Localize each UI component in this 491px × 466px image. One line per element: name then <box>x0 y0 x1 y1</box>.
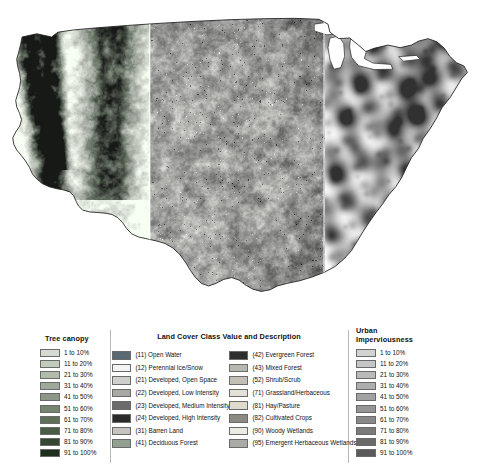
tree-canopy-legend-item: 41 to 50% <box>40 392 112 403</box>
legend-color-swatch <box>356 371 376 379</box>
legend-color-swatch <box>229 376 248 385</box>
land-cover-legend-item: (21) Developed, Open Space <box>112 374 229 387</box>
land-cover-legend-item: (23) Developed, Medium Intensity <box>112 399 229 412</box>
legend-color-swatch <box>356 449 376 457</box>
land-cover-legend-item: (11) Open Water <box>112 349 229 362</box>
land-cover-legend-item: (81) Hay/Pasture <box>229 399 346 412</box>
land-cover-legend-item: (12) Perennial Ice/Snow <box>112 362 229 375</box>
land-cover-legend-item: (22) Developed, Low Intensity <box>112 387 229 400</box>
urban-imperviousness-legend-rows: 1 to 10%11 to 20%21 to 30%31 to 40%41 to… <box>356 347 446 459</box>
legend-color-swatch <box>40 449 60 457</box>
legend-item-label: 1 to 10% <box>380 349 405 357</box>
land-cover-legend-item: (90) Woody Wetlands <box>229 425 346 438</box>
legend-color-swatch <box>229 351 248 360</box>
land-cover-legend-item: (52) Shrub/Scrub <box>229 374 346 387</box>
legend-color-swatch <box>356 382 376 390</box>
legend-item-label: 81 to 90% <box>380 438 409 446</box>
tree-canopy-legend-title: Tree canopy <box>45 334 112 343</box>
legend-item-label: 61 to 70% <box>380 416 409 424</box>
legend-item-label: 61 to 70% <box>64 416 93 424</box>
legend-item-label: (81) Hay/Pasture <box>253 402 301 410</box>
legend-item-label: (24) Developed, High Intensity <box>136 414 221 422</box>
urban-imperviousness-legend-item: 51 to 60% <box>356 403 446 414</box>
tree-canopy-legend-item: 1 to 10% <box>40 347 112 358</box>
legend-item-label: 81 to 90% <box>64 438 93 446</box>
land-cover-legend-item: (43) Mixed Forest <box>229 362 346 375</box>
legend-color-swatch <box>229 364 248 373</box>
us-nlcd-map-image <box>0 0 491 322</box>
legend-color-swatch <box>112 401 131 410</box>
legend-color-swatch <box>40 382 60 390</box>
legend-color-swatch <box>356 349 376 357</box>
legend-item-label: (11) Open Water <box>136 351 182 359</box>
tree-canopy-legend-item: 91 to 100% <box>40 448 112 459</box>
urban-imperviousness-legend-item: 11 to 20% <box>356 358 446 369</box>
urban-imperviousness-legend-item: 41 to 50% <box>356 392 446 403</box>
legend-area: Tree canopy 1 to 10%11 to 20%21 to 30%31… <box>0 322 491 466</box>
legend-item-label: (41) Deciduous Forest <box>136 439 198 447</box>
legend-color-swatch <box>229 401 248 410</box>
legend-color-swatch <box>40 438 60 446</box>
land-cover-legend-title: Land Cover Class Value and Description <box>112 332 346 341</box>
legend-item-label: (22) Developed, Low Intensity <box>136 389 219 397</box>
urban-imperviousness-legend-title: Urban Imperviousness <box>356 326 446 344</box>
urban-imperviousness-legend-item: 31 to 40% <box>356 381 446 392</box>
legend-item-label: (12) Perennial Ice/Snow <box>136 364 203 372</box>
legend-item-label: 21 to 30% <box>380 371 409 379</box>
legend-item-label: 71 to 80% <box>380 427 409 435</box>
map-figure <box>0 0 491 322</box>
tree-canopy-legend-item: 51 to 60% <box>40 403 112 414</box>
legend-item-label: 41 to 50% <box>64 393 93 401</box>
legend-item-label: 51 to 60% <box>380 405 409 413</box>
legend-color-swatch <box>40 427 60 435</box>
urban-imperviousness-legend-item: 61 to 70% <box>356 414 446 425</box>
land-cover-legend-item: (95) Emergent Herbaceous Wetlands <box>229 437 346 450</box>
legend-color-swatch <box>356 427 376 435</box>
land-cover-legend-item: (41) Deciduous Forest <box>112 437 229 450</box>
urban-imperviousness-legend-item: 21 to 30% <box>356 369 446 380</box>
legend-color-swatch <box>40 360 60 368</box>
tree-canopy-legend-rows: 1 to 10%11 to 20%21 to 30%31 to 40%41 to… <box>40 347 112 459</box>
tree-canopy-legend: Tree canopy 1 to 10%11 to 20%21 to 30%31… <box>40 334 112 459</box>
legend-item-label: 31 to 40% <box>380 382 409 390</box>
legend-item-label: 91 to 100% <box>380 449 412 457</box>
legend-item-label: 71 to 80% <box>64 427 93 435</box>
tree-canopy-legend-item: 21 to 30% <box>40 369 112 380</box>
legend-color-swatch <box>229 389 248 398</box>
urban-imperviousness-legend-item: 81 to 90% <box>356 437 446 448</box>
legend-color-swatch <box>229 427 248 436</box>
legend-item-label: 11 to 20% <box>64 360 92 368</box>
urban-legend-title-line-1: Urban <box>356 326 446 335</box>
legend-item-label: 91 to 100% <box>64 449 96 457</box>
legend-color-swatch <box>112 376 131 385</box>
land-cover-legend-item: (82) Cultivated Crops <box>229 412 346 425</box>
tree-canopy-legend-item: 11 to 20% <box>40 358 112 369</box>
legend-color-swatch <box>112 364 131 373</box>
legend-item-label: 21 to 30% <box>64 371 93 379</box>
legend-color-swatch <box>356 360 376 368</box>
legend-color-swatch <box>40 416 60 424</box>
land-cover-legend-item: (42) Evergreen Forest <box>229 349 346 362</box>
tree-canopy-legend-item: 61 to 70% <box>40 414 112 425</box>
legend-item-label: 41 to 50% <box>380 393 409 401</box>
legend-color-swatch <box>40 405 60 413</box>
legend-color-swatch <box>356 416 376 424</box>
land-cover-column-left: (11) Open Water(12) Perennial Ice/Snow(2… <box>112 349 229 450</box>
legend-item-label: 31 to 40% <box>64 382 93 390</box>
legend-item-label: (90) Woody Wetlands <box>253 427 313 435</box>
legend-item-label: 51 to 60% <box>64 405 93 413</box>
legend-item-label: (95) Emergent Herbaceous Wetlands <box>253 439 357 447</box>
tree-canopy-legend-item: 71 to 80% <box>40 425 112 436</box>
legend-item-label: (31) Barren Land <box>136 427 184 435</box>
legend-color-swatch <box>229 439 248 448</box>
land-cover-legend-item: (31) Barren Land <box>112 425 229 438</box>
legend-item-label: (71) Grassland/Herbaceous <box>253 389 330 397</box>
urban-imperviousness-legend: Urban Imperviousness 1 to 10%11 to 20%21… <box>356 326 446 459</box>
urban-imperviousness-legend-item: 1 to 10% <box>356 347 446 358</box>
land-cover-column-right: (42) Evergreen Forest(43) Mixed Forest(5… <box>229 349 346 450</box>
urban-imperviousness-legend-item: 71 to 80% <box>356 425 446 436</box>
legend-color-swatch <box>229 414 248 423</box>
legend-item-label: 1 to 10% <box>64 349 89 357</box>
legend-color-swatch <box>356 393 376 401</box>
legend-item-label: 11 to 20% <box>380 360 408 368</box>
